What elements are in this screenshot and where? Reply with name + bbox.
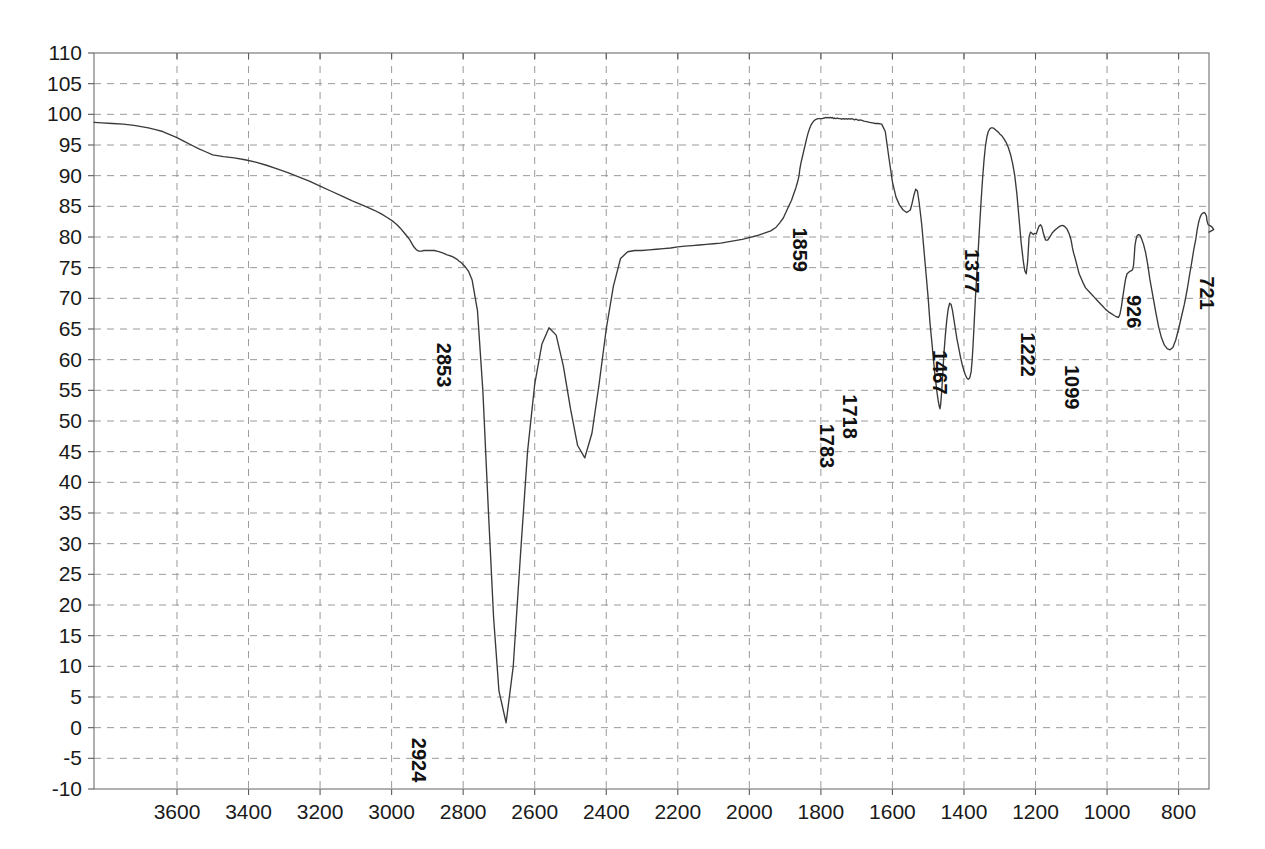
x-tick-label: 2000: [726, 800, 773, 823]
x-tick-label: 3200: [297, 800, 344, 823]
y-tick-label: 80: [59, 225, 82, 248]
x-tick-label: 3600: [154, 800, 201, 823]
peak-label: 1783: [816, 424, 838, 469]
x-tick-label: 2600: [511, 800, 558, 823]
x-tick-label: 3000: [368, 800, 415, 823]
y-tick-label: 85: [59, 194, 82, 217]
y-tick-label: 55: [59, 378, 82, 401]
y-tick-label: 0: [70, 716, 82, 739]
x-tick-label: 800: [1161, 800, 1196, 823]
y-tick-label: 75: [59, 256, 82, 279]
y-tick-label: 25: [59, 562, 82, 585]
y-tick-label: 90: [59, 164, 82, 187]
peak-label: 721: [1196, 277, 1218, 310]
y-tick-label: 30: [59, 532, 82, 555]
x-tick-label: 1400: [941, 800, 988, 823]
y-tick-label: -5: [63, 746, 82, 769]
y-tick-label: 70: [59, 286, 82, 309]
x-tick-label: 1000: [1084, 800, 1131, 823]
x-tick-label: 2400: [583, 800, 630, 823]
y-tick-label: 15: [59, 624, 82, 647]
peak-label: 1718: [839, 394, 861, 439]
x-tick-label: 2800: [440, 800, 487, 823]
peak-label: 2924: [408, 738, 430, 783]
y-tick-label: 95: [59, 133, 82, 156]
y-tick-label: 60: [59, 348, 82, 371]
x-tick-label: 2200: [654, 800, 701, 823]
x-tick-label: 1200: [1012, 800, 1059, 823]
chart-background: [0, 0, 1265, 849]
peak-label: 1859: [789, 228, 811, 273]
y-tick-label: 105: [47, 72, 82, 95]
y-tick-label: 5: [70, 685, 82, 708]
ir-spectrum-chart: 3600340032003000280026002400220020001800…: [0, 0, 1265, 849]
peak-label: 1222: [1017, 332, 1039, 377]
x-tick-label: 1800: [798, 800, 845, 823]
peak-label: 1377: [961, 249, 983, 294]
peak-label: 1099: [1061, 365, 1083, 410]
y-tick-label: 50: [59, 409, 82, 432]
peak-label: 1467: [929, 350, 951, 395]
y-tick-label: 20: [59, 593, 82, 616]
y-tick-label: 65: [59, 317, 82, 340]
x-tick-label: 3400: [225, 800, 272, 823]
y-tick-label: 35: [59, 501, 82, 524]
y-tick-label: 110: [49, 41, 82, 64]
peak-label: 2853: [433, 343, 455, 388]
y-tick-label: 100: [47, 102, 82, 125]
y-tick-label: 10: [59, 654, 82, 677]
spectrum-plot-svg: 3600340032003000280026002400220020001800…: [0, 0, 1265, 849]
peak-label: 926: [1123, 295, 1145, 328]
y-tick-label: 40: [59, 470, 82, 493]
y-tick-label: 45: [59, 440, 82, 463]
y-tick-label: -10: [52, 777, 82, 800]
x-tick-label: 1600: [869, 800, 916, 823]
x-axis-tick-labels: 3600340032003000280026002400220020001800…: [154, 800, 1196, 823]
